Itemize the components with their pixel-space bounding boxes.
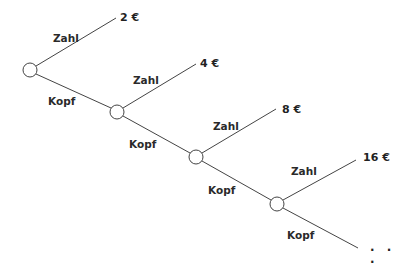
payout-value-1: 2 € — [120, 12, 139, 23]
branch-label-zahl-3: Zahl — [213, 121, 239, 132]
branch-zahl-2 — [123, 64, 196, 108]
tree-node-1 — [23, 63, 37, 77]
tree-node-4 — [270, 197, 284, 211]
branch-label-kopf-4: Kopf — [287, 230, 314, 241]
branch-kopf-4 — [283, 208, 358, 248]
payout-value-2: 4 € — [200, 58, 219, 69]
branch-label-kopf-3: Kopf — [208, 185, 235, 196]
tree-node-2 — [110, 105, 124, 119]
branch-label-kopf-1: Kopf — [48, 96, 75, 107]
payout-value-4: 16 € — [363, 152, 390, 163]
branch-label-zahl-1: Zahl — [53, 33, 79, 44]
branch-label-zahl-2: Zahl — [133, 75, 159, 86]
branch-label-kopf-2: Kopf — [129, 139, 156, 150]
continuation-ellipsis: . . . — [370, 241, 409, 264]
branch-label-zahl-4: Zahl — [291, 166, 317, 177]
payout-value-3: 8 € — [282, 104, 301, 115]
tree-node-3 — [189, 150, 203, 164]
